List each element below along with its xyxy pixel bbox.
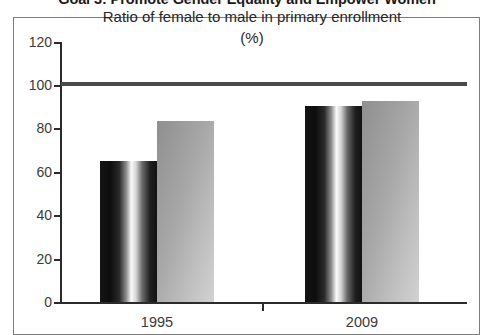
screenshot-root: Goal 3: Promote Gender Equality and Empo… <box>0 0 494 335</box>
bar-2009-series-1[interactable] <box>305 106 362 302</box>
bar-1995-series-1[interactable] <box>100 161 157 302</box>
bars-layer <box>0 0 494 302</box>
bar-2009-series-2[interactable] <box>362 101 419 302</box>
x-axis-label-1995: 1995 <box>112 314 202 330</box>
x-axis-label-2009: 2009 <box>317 314 407 330</box>
bar-1995-series-2[interactable] <box>157 121 214 302</box>
x-tick-mark-divider <box>262 304 264 311</box>
